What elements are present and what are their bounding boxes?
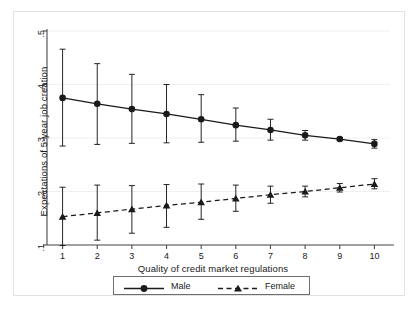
y-tick-label: .4 xyxy=(36,84,46,108)
series-female xyxy=(59,179,378,246)
x-tick-label: 1 xyxy=(49,251,77,261)
legend-label-male: Male xyxy=(171,281,191,291)
x-tick-label: 10 xyxy=(360,251,388,261)
x-tick-label: 6 xyxy=(222,251,250,261)
legend-key-male-icon xyxy=(122,280,166,291)
legend-label-female: Female xyxy=(265,281,295,291)
y-tick-label: .3 xyxy=(36,137,46,161)
x-tick-label: 3 xyxy=(118,251,146,261)
legend: Male Female xyxy=(113,276,310,295)
legend-item-female: Female xyxy=(216,277,295,294)
x-tick-label: 2 xyxy=(83,251,111,261)
y-tick-label: .1 xyxy=(36,244,46,268)
figure-container: Expectations of 5-year job creation Qual… xyxy=(0,0,419,318)
legend-key-female-icon xyxy=(216,280,260,291)
x-axis-title: Quality of credit market regulations xyxy=(48,263,378,274)
x-tick-label: 9 xyxy=(326,251,354,261)
x-tick-label: 8 xyxy=(291,251,319,261)
x-tick-label: 5 xyxy=(187,251,215,261)
y-tick-label: .2 xyxy=(36,191,46,215)
series-male xyxy=(59,49,377,148)
tick-marks xyxy=(43,31,374,249)
legend-item-male: Male xyxy=(122,277,191,294)
x-tick-label: 7 xyxy=(256,251,284,261)
x-tick-label: 4 xyxy=(153,251,181,261)
y-tick-label: .5 xyxy=(36,30,46,54)
